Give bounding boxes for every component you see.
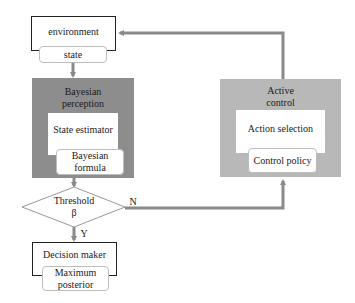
bayesian-formula-line-1: Bayesian xyxy=(72,150,109,162)
decision-maker-label: Decision maker xyxy=(33,249,116,261)
bayesian-formula-box: Bayesian formula xyxy=(56,149,124,175)
control-policy-box: Control policy xyxy=(248,148,317,173)
maximum-posterior-line-2: posterior xyxy=(58,279,94,291)
threshold-label: Threshold xyxy=(34,195,114,207)
bayesian-perception-title-2: perception xyxy=(32,98,134,110)
state-estimator-label: State estimator xyxy=(53,124,113,136)
arrow-threshold-to-control xyxy=(125,181,283,208)
bayesian-formula-line-2: formula xyxy=(74,162,106,174)
threshold-beta: β xyxy=(34,207,114,219)
yes-label: Y xyxy=(78,228,90,240)
arrow-control-to-environment xyxy=(120,33,283,79)
active-control-title-2: control xyxy=(220,97,341,109)
active-control-node: Active control Action selection Control … xyxy=(220,79,341,177)
bayesian-perception-title-1: Bayesian xyxy=(32,86,134,98)
action-selection-label: Action selection xyxy=(248,123,313,135)
maximum-posterior-box: Maximum posterior xyxy=(42,266,109,291)
no-label: N xyxy=(127,196,139,208)
maximum-posterior-line-1: Maximum xyxy=(55,267,97,279)
state-box: state xyxy=(39,46,107,63)
action-selection-box: Action selection xyxy=(236,110,325,153)
bayesian-perception-node: Bayesian perception State estimator Baye… xyxy=(32,78,134,178)
active-control-title-1: Active xyxy=(220,85,341,97)
environment-label: environment xyxy=(32,26,115,38)
